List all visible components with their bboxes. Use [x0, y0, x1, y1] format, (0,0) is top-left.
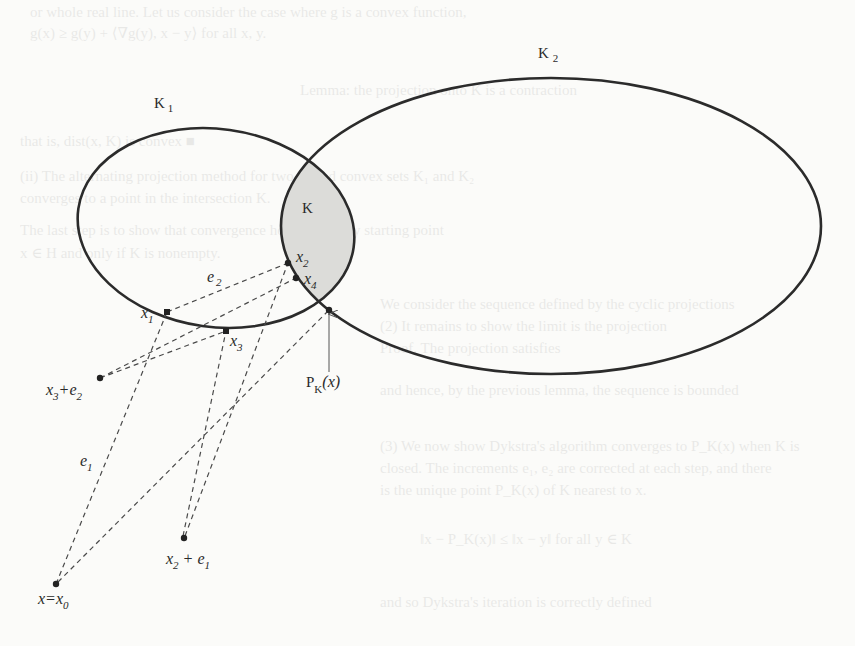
iteration-points	[53, 260, 332, 587]
point-x1	[164, 309, 170, 315]
path-x3e2-to-x3	[100, 331, 226, 378]
label-e2: e2	[207, 268, 222, 288]
label-k2: K2	[538, 45, 558, 64]
iteration-paths	[56, 263, 328, 584]
point-x3-plus-e2	[97, 375, 103, 381]
point-pk-x	[326, 307, 332, 313]
label-x1: x1	[140, 304, 154, 325]
label-x3-plus-e2: x3+e2	[45, 381, 83, 402]
path-x0-to-pk	[58, 311, 328, 582]
intersection-region-k	[281, 78, 821, 374]
path-x2e1-to-x3	[183, 331, 226, 536]
point-x4	[293, 275, 299, 281]
point-x3	[223, 328, 229, 334]
label-x2-plus-e1: x2 + e1	[165, 550, 210, 571]
label-x3: x3	[229, 332, 243, 353]
point-x0	[53, 581, 59, 587]
label-e1: e1	[80, 452, 93, 473]
path-x3e2-to-x4	[100, 278, 296, 378]
label-k: K	[302, 200, 313, 216]
label-projection-pk: PK(x)	[306, 373, 340, 395]
point-x2-plus-e1	[181, 535, 187, 541]
dykstra-projection-diagram: K1 K2 K x2 x4 x1 x3 x3+e2 x2 + e1 x=x0 P…	[0, 0, 855, 646]
label-k1: K1	[154, 95, 173, 114]
path-x1-to-x2	[167, 263, 288, 312]
point-x2	[285, 260, 291, 266]
path-x2e1-to-x2	[185, 263, 288, 536]
set-k2-boundary	[281, 78, 821, 374]
label-x0: x=x0	[37, 590, 69, 611]
